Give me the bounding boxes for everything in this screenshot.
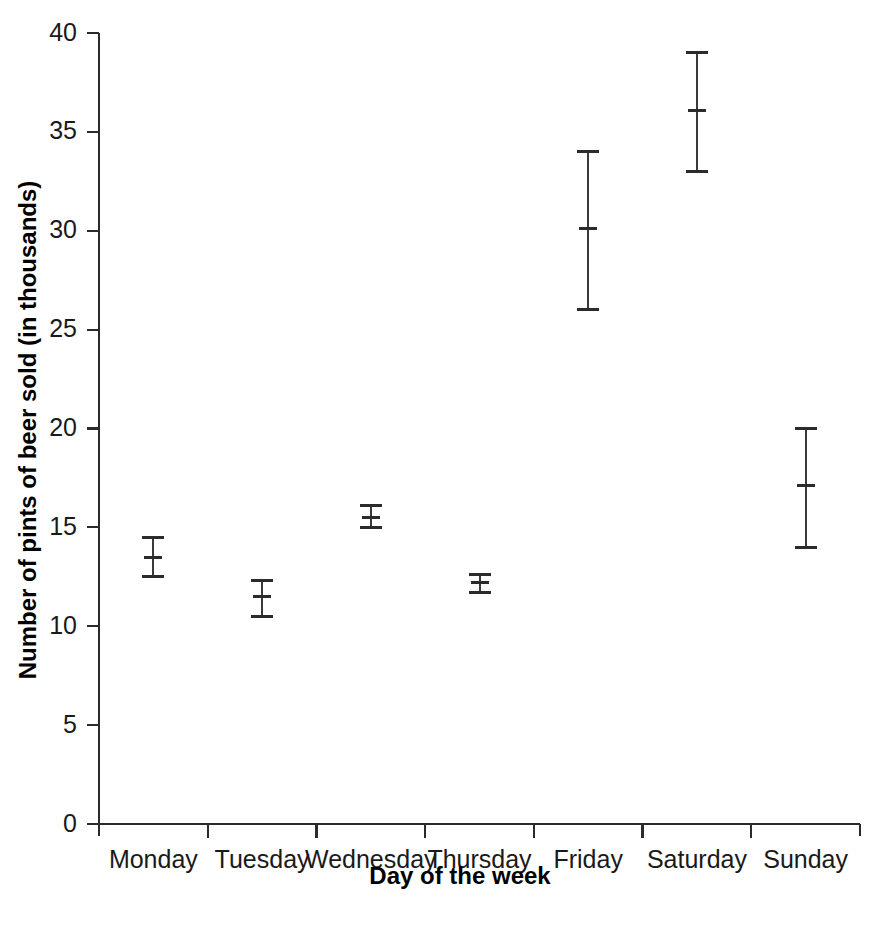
y-axis-title: Number of pints of beer sold (in thousan… [14,181,41,680]
x-tick-label-tuesday: Tuesday [215,845,310,873]
error-bar-chart: 0510152025303540 MondayTuesdayWednesdayT… [0,0,890,925]
chart-container: 0510152025303540 MondayTuesdayWednesdayT… [0,0,890,925]
error-bar-thursday [469,575,491,593]
y-tick-label: 40 [49,18,77,46]
error-bar-monday [142,537,164,577]
y-tick-label: 25 [49,314,77,342]
y-tick-label: 0 [63,809,77,837]
x-axis-title: Day of the week [369,862,551,889]
y-axis [87,33,99,824]
y-tick-label: 5 [63,710,77,738]
y-tick-label: 20 [49,413,77,441]
x-tick-label-friday: Friday [553,845,623,873]
y-tick-label: 10 [49,611,77,639]
x-axis [99,824,860,838]
error-bar-friday [577,152,599,310]
y-tick-label: 35 [49,116,77,144]
x-tick-label-saturday: Saturday [647,845,748,873]
y-tick-label: 15 [49,512,77,540]
error-bar-wednesday [360,506,382,528]
x-tick-label-monday: Monday [109,845,198,873]
error-bar-tuesday [251,581,273,617]
error-bar-saturday [686,53,708,172]
y-tick-labels: 0510152025303540 [49,18,77,837]
error-bar-sunday [795,429,817,548]
y-tick-label: 30 [49,215,77,243]
x-tick-label-sunday: Sunday [763,845,848,873]
error-bar-series [142,53,816,617]
